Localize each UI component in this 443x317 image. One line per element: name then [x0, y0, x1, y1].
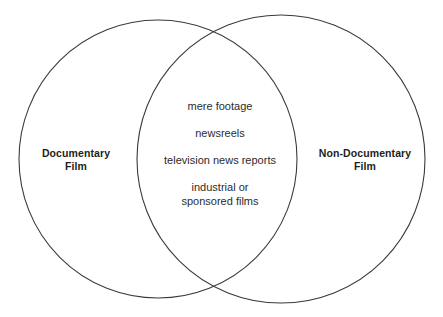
intersection-items-list: mere footage newsreels television news r… — [134, 100, 306, 208]
intersection-item-line1: industrial or — [192, 181, 249, 193]
intersection-item: newsreels — [134, 127, 306, 141]
right-set-label-line1: Non-Documentary — [319, 147, 412, 159]
left-set-label-line2: Film — [65, 160, 87, 172]
right-set-label-line2: Film — [354, 160, 376, 172]
venn-diagram-figure: Documentary Film Non-Documentary Film me… — [0, 0, 443, 317]
left-set-label: Documentary Film — [14, 147, 138, 173]
intersection-item: television news reports — [134, 154, 306, 168]
right-set-label: Non-Documentary Film — [301, 147, 429, 173]
left-set-label-line1: Documentary — [42, 147, 110, 159]
intersection-item-line2: sponsored films — [134, 195, 306, 209]
intersection-item: mere footage — [134, 100, 306, 114]
intersection-item: industrial or sponsored films — [134, 181, 306, 208]
